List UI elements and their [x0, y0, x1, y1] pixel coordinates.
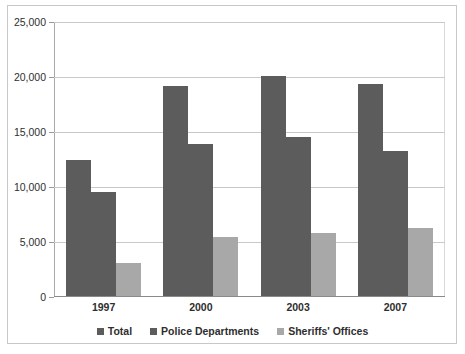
bar — [66, 160, 91, 296]
bar — [188, 144, 213, 296]
y-axis-tick-mark — [49, 242, 54, 243]
x-axis-baseline — [54, 296, 445, 297]
bar — [383, 151, 408, 296]
y-axis-tick-label: 5,000 — [20, 237, 46, 248]
bar — [261, 76, 286, 296]
y-axis-tick-mark — [49, 297, 54, 298]
bar — [286, 137, 311, 297]
legend-swatch-icon — [97, 328, 104, 335]
bar — [213, 237, 238, 296]
x-axis-tick-label: 2003 — [250, 301, 347, 313]
bar-group — [250, 22, 347, 296]
bar-group — [347, 22, 444, 296]
x-axis-tick-label: 2007 — [347, 301, 444, 313]
x-axis-labels: 1997200020032007 — [55, 301, 444, 313]
y-axis-tick-label: 10,000 — [14, 182, 46, 193]
y-axis-tick-mark — [49, 187, 54, 188]
legend-label: Police Departments — [161, 325, 259, 337]
x-axis-tick-label: 1997 — [55, 301, 152, 313]
legend-item[interactable]: Police Departments — [150, 325, 259, 337]
bar — [91, 192, 116, 297]
y-axis-tick-label: 15,000 — [14, 127, 46, 138]
chart-legend: TotalPolice DepartmentsSheriffs' Offices — [0, 325, 465, 337]
legend-item[interactable]: Total — [97, 325, 132, 337]
legend-swatch-icon — [277, 328, 284, 335]
legend-item[interactable]: Sheriffs' Offices — [277, 325, 368, 337]
y-axis-tick-mark — [49, 132, 54, 133]
bar-group — [152, 22, 249, 296]
bar — [311, 233, 336, 296]
y-axis-tick-label: 20,000 — [14, 72, 46, 83]
bar-chart-figure: 05,00010,00015,00020,00025,000 199720002… — [0, 0, 465, 354]
legend-swatch-icon — [150, 328, 157, 335]
plot-area — [54, 22, 445, 297]
bar-groups — [55, 22, 444, 296]
legend-label: Total — [108, 325, 132, 337]
y-axis-tick-label: 25,000 — [14, 17, 46, 28]
y-axis-tick-label: 0 — [40, 292, 46, 303]
y-axis-tick-mark — [49, 22, 54, 23]
y-axis: 05,00010,00015,00020,00025,000 — [0, 22, 46, 297]
y-axis-tick-mark — [49, 77, 54, 78]
bar — [163, 86, 188, 296]
bar-group — [55, 22, 152, 296]
x-axis-tick-label: 2000 — [152, 301, 249, 313]
bar — [358, 84, 383, 296]
legend-label: Sheriffs' Offices — [288, 325, 368, 337]
bar — [116, 263, 141, 296]
bar — [408, 228, 433, 296]
